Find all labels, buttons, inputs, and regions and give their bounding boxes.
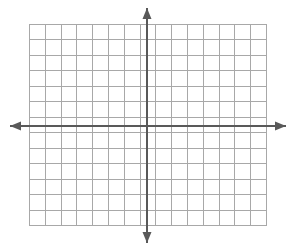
graph-canvas	[0, 0, 295, 251]
coordinate-grid-figure	[0, 0, 295, 251]
